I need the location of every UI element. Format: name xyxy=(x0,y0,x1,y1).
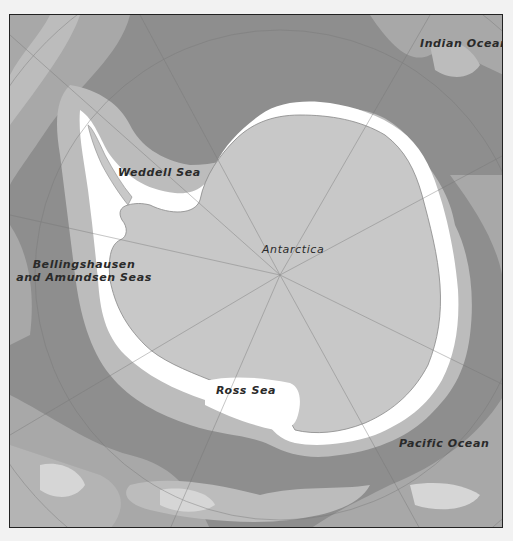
map-frame: Indian Ocean Weddell Sea Antarctica Bell… xyxy=(9,14,503,528)
bellingshausen-amundsen-seas-label: Bellingshausen and Amundsen Seas xyxy=(14,258,154,284)
weddell-sea-label: Weddell Sea xyxy=(118,166,201,179)
pacific-ocean-label: Pacific Ocean xyxy=(399,437,489,450)
bellingshausen-label-line1: Bellingshausen xyxy=(14,258,154,271)
antarctica-label: Antarctica xyxy=(262,243,324,256)
bellingshausen-label-line2: and Amundsen Seas xyxy=(14,271,154,284)
ross-sea-label: Ross Sea xyxy=(216,384,276,397)
indian-ocean-label: Indian Ocean xyxy=(420,37,503,50)
